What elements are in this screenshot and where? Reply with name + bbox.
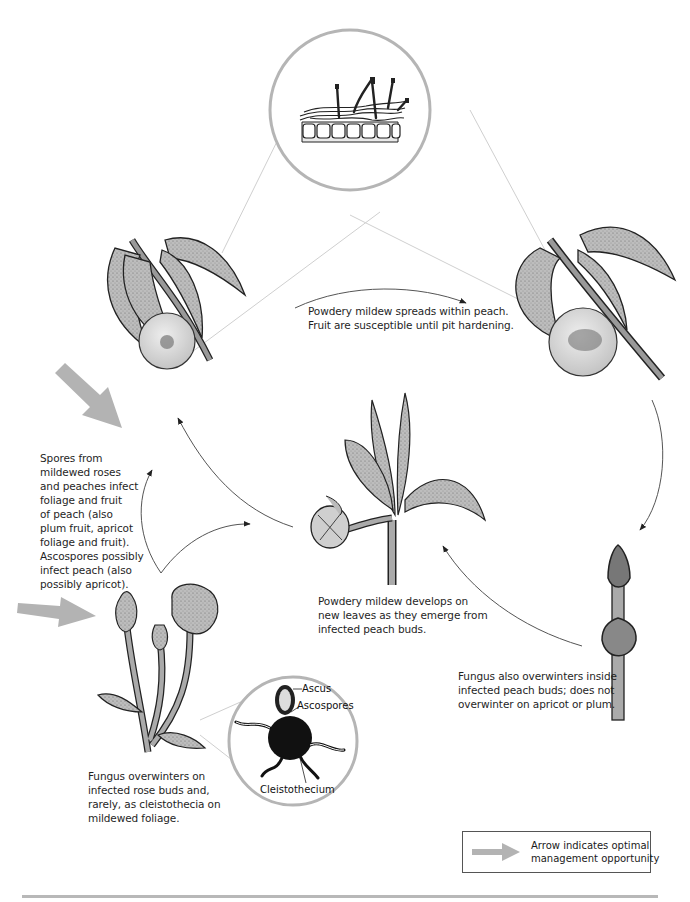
arrow-to-dormant-bud bbox=[640, 400, 663, 530]
legend: Arrow indicates optimal management oppor… bbox=[462, 831, 651, 873]
bottom-divider bbox=[22, 895, 658, 898]
management-arrow-spring bbox=[55, 363, 122, 428]
label-ascus: Ascus bbox=[302, 683, 331, 694]
arrow-rose-to-shoot bbox=[161, 524, 250, 573]
caption-spread-within-peach: Powdery mildew spreads within peach. Fru… bbox=[308, 304, 514, 332]
caption-new-leaves: Powdery mildew develops on new leaves as… bbox=[318, 594, 488, 636]
magnifier-mycelium bbox=[270, 30, 430, 190]
peach-twig-late-illustration bbox=[516, 227, 675, 378]
peach-twig-early-illustration bbox=[108, 238, 245, 369]
arrow-rose-to-peach bbox=[141, 470, 161, 573]
legend-text: Arrow indicates optimal management oppor… bbox=[531, 839, 659, 865]
gray-arrow-icon bbox=[472, 842, 522, 862]
caption-spore-infection: Spores from mildewed roses and peaches i… bbox=[40, 451, 144, 591]
disease-cycle-diagram: Powdery mildew spreads within peach. Fru… bbox=[0, 0, 690, 902]
label-ascospores: Ascospores bbox=[297, 700, 354, 711]
management-arrow-rose bbox=[17, 597, 96, 627]
rose-mildewed-buds-illustration bbox=[98, 584, 218, 752]
caption-peach-bud-overwinter: Fungus also overwinters inside infected … bbox=[458, 669, 617, 711]
caption-rose-overwinter: Fungus overwinters on infected rose buds… bbox=[88, 769, 221, 825]
label-cleistothecium: Cleistothecium bbox=[260, 784, 335, 795]
peach-shoot-new-leaves-illustration bbox=[311, 393, 485, 585]
arrow-new-leaves-to-fruit bbox=[178, 418, 293, 527]
